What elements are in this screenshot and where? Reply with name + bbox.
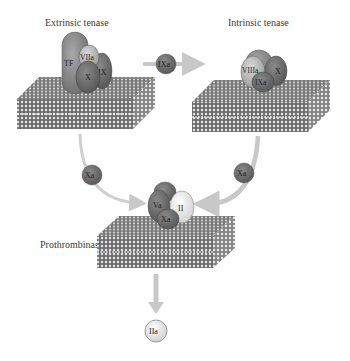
xa-label-prothrombinase: Xa: [161, 215, 171, 224]
iia-output-arrow: IIa: [145, 274, 167, 342]
intrinsic-tenase-label: Intrinsic tenase: [228, 17, 289, 28]
ii-label: II: [178, 204, 184, 213]
iia-label: IIa: [149, 327, 158, 336]
xa-right-arrow: Xa: [206, 136, 258, 204]
x-label-extrinsic: X: [85, 73, 91, 82]
extrinsic-tenase-label: Extrinsic tenase: [45, 17, 109, 28]
xa-left-arrow: Xa: [80, 134, 138, 203]
ixa-activation-arrow: IXa: [143, 54, 194, 74]
xa-label-left: Xa: [85, 171, 95, 180]
va-label: Va: [153, 201, 162, 210]
viia-label: VIIa: [80, 53, 94, 62]
coagulation-diagram: Extrinsic tenase TF IX VIIa X IXa Intrin…: [0, 0, 350, 361]
tf-label: TF: [64, 59, 74, 68]
intrinsic-tenase-complex: Intrinsic tenase VIIIa X IXa: [192, 17, 330, 132]
prothrombinase-complex: Prothrombinase Va II Xa: [40, 182, 235, 268]
xa-label-right: Xa: [237, 169, 247, 178]
ixa-label: IXa: [158, 60, 170, 69]
x-label-intrinsic: X: [275, 67, 281, 76]
viiia-label: VIIIa: [242, 66, 259, 75]
extrinsic-tenase-complex: Extrinsic tenase TF IX VIIa X: [17, 17, 155, 129]
prothrombinase-label: Prothrombinase: [40, 239, 104, 250]
ixa-label-intrinsic: IXa: [255, 78, 267, 87]
